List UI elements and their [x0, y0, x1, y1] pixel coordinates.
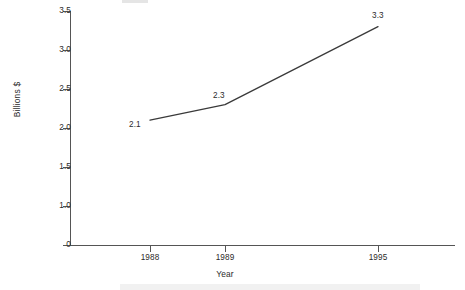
series-line	[150, 27, 378, 121]
data-label-1995: 3.3	[372, 12, 384, 20]
data-label-1988: 2.1	[129, 121, 141, 129]
series-plot-area	[0, 0, 465, 290]
line-chart: 3.5 3.0 2.5 2.0 1.5 1.0 0 1988 1989 1995…	[0, 0, 465, 290]
scan-artifact-top	[122, 0, 148, 3]
scan-artifact-bottom	[120, 284, 420, 290]
data-label-1989: 2.3	[213, 92, 225, 100]
